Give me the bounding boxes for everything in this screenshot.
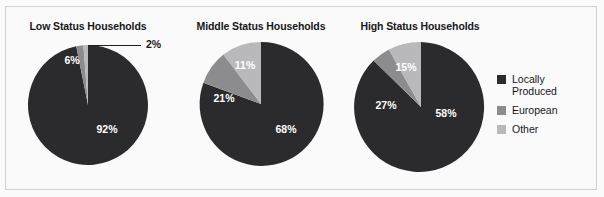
pie-slices-low-status — [28, 45, 148, 165]
legend-swatch-icon-locally-produced — [497, 75, 506, 84]
legend-item-european: European — [497, 104, 558, 116]
pie-svg-middle-status: 68% 21% 11% — [198, 41, 324, 167]
legend-swatch-icon-other — [497, 125, 506, 134]
pie-title-middle-status: Middle Status Households — [186, 20, 336, 32]
slice-value-european: 21% — [213, 92, 235, 104]
pie-svg-low-status: 92% 6% — [27, 44, 149, 166]
callout-leader-line — [89, 45, 141, 46]
legend-swatch-icon-european — [497, 106, 506, 115]
legend-label-locally-produced: Locally Produced — [512, 73, 557, 97]
slice-value-locally-produced: 58% — [435, 107, 457, 119]
slice-value-european: 6% — [64, 54, 80, 66]
slice-value-other: 11% — [235, 59, 256, 71]
slice-value-locally-produced: 92% — [96, 123, 118, 135]
pie-svg-high-status: 58% 27% 15% — [355, 41, 487, 173]
pie-slices-high-status — [354, 42, 484, 172]
legend-label-european: European — [512, 104, 558, 116]
legend-item-other: Other — [497, 123, 558, 135]
pie-chart-high-status: 58% 27% 15% — [355, 41, 487, 173]
pie-slices-middle-status — [200, 42, 324, 166]
slice-value-locally-produced: 68% — [275, 123, 297, 135]
slice-value-european: 27% — [375, 99, 397, 111]
pie-chart-low-status: 92% 6% — [27, 44, 149, 166]
legend-item-locally-produced: Locally Produced — [497, 73, 558, 97]
legend-label-other: Other — [512, 123, 538, 135]
callout-value-other: 2% — [146, 38, 161, 50]
pie-title-high-status: High Status Households — [347, 20, 493, 32]
pie-title-low-status: Low Status Households — [16, 20, 160, 32]
pie-chart-middle-status: 68% 21% 11% — [198, 41, 324, 167]
chart-legend: Locally Produced European Other — [497, 73, 558, 142]
pie-chart-figure: Low Status Households 92% 6% 2% Middle S… — [0, 0, 604, 197]
slice-value-other: 15% — [395, 61, 417, 73]
